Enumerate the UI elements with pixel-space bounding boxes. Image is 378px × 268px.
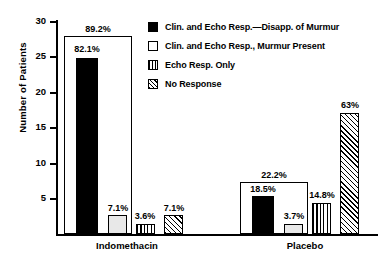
y-tick-30	[50, 21, 56, 23]
legend-item-clin-echo-disapp-murmur: Clin. and Echo Resp.—Disapp. of Murmur	[148, 19, 339, 35]
bar-label-placebo-black: 18.5%	[238, 184, 288, 194]
legend-label-0: Clin. and Echo Resp.—Disapp. of Murmur	[165, 22, 339, 32]
bar-label-indomethacin-outer: 89.2%	[64, 24, 132, 34]
x-axis-label-placebo: Placebo	[240, 240, 370, 251]
legend-item-no-response: No Response	[148, 76, 339, 92]
bar-label-placebo-hatch: 63%	[332, 100, 368, 110]
legend-label-1: Clin. and Echo Resp., Murmur Present	[165, 41, 325, 51]
legend-label-2: Echo Resp. Only	[165, 60, 235, 70]
y-tick-label-25: 25	[16, 50, 46, 61]
y-tick-label-10: 10	[16, 157, 46, 168]
x-axis-label-indomethacin: Indomethacin	[62, 240, 192, 251]
bar-indomethacin-echo-resp-only	[136, 224, 155, 234]
bar-indomethacin-no-response	[164, 215, 183, 234]
y-tick-10	[50, 163, 56, 165]
bar-label-placebo-outer: 22.2%	[240, 170, 308, 180]
white-outline-swatch-icon	[148, 41, 158, 51]
x-axis-line	[56, 234, 378, 236]
solid-black-swatch-icon	[148, 22, 158, 32]
bar-placebo-no-response	[340, 113, 359, 234]
bar-indomethacin-clin-echo-disapp-murmur	[76, 58, 98, 234]
legend-label-3: No Response	[165, 79, 221, 89]
bar-chart: Number of Patients 30 25 20 15 10 5 89.2…	[0, 0, 378, 268]
legend-item-echo-resp-only: Echo Resp. Only	[148, 57, 339, 73]
y-tick-label-30: 30	[16, 15, 46, 26]
y-axis-line	[56, 20, 58, 235]
y-tick-20	[50, 92, 56, 94]
y-tick-label-20: 20	[16, 86, 46, 97]
bar-label-indomethacin-hatch: 7.1%	[155, 203, 193, 213]
bar-label-indomethacin-black: 82.1%	[62, 44, 112, 54]
bar-placebo-echo-resp-only	[312, 203, 331, 234]
diagonal-hatch-swatch-icon	[148, 79, 158, 89]
y-tick-label-5: 5	[16, 192, 46, 203]
y-tick-5	[50, 198, 56, 200]
vertical-stripe-swatch-icon	[148, 60, 158, 70]
bar-placebo-murmur-present-count	[284, 224, 303, 234]
bar-label-placebo-small-white: 3.7%	[275, 211, 313, 221]
y-tick-label-15: 15	[16, 121, 46, 132]
legend-item-clin-echo-murmur-present: Clin. and Echo Resp., Murmur Present	[148, 38, 339, 54]
bar-placebo-clin-echo-disapp-murmur	[252, 196, 274, 234]
legend: Clin. and Echo Resp.—Disapp. of Murmur C…	[148, 19, 339, 95]
bar-label-placebo-stripe: 14.8%	[302, 190, 342, 200]
y-tick-25	[50, 56, 56, 58]
bar-indomethacin-murmur-present-count	[108, 215, 127, 234]
y-tick-15	[50, 127, 56, 129]
